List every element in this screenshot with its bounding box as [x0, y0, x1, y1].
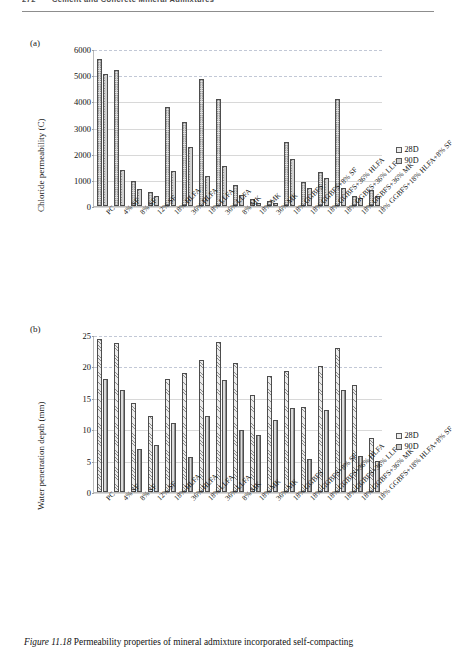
chart-panel-a: (a) Chloride permeability (C) 0100020003…	[0, 36, 455, 306]
panel-a-y-axis-title: Chloride permeability (C)	[36, 119, 46, 212]
y-axis-tick-label: 4000	[74, 97, 91, 107]
bar-28d	[97, 339, 102, 492]
legend-swatch-icon	[396, 444, 402, 450]
legend-swatch-icon	[396, 147, 402, 153]
y-axis-tick-label: 3000	[74, 124, 91, 134]
bar-28d	[131, 403, 136, 492]
bar-28d	[97, 59, 102, 206]
legend-label: 90D	[405, 157, 419, 165]
bar-28d	[301, 407, 306, 492]
bar-28d	[148, 416, 153, 492]
y-axis-tick-mark	[92, 430, 95, 431]
legend-item[interactable]: 90D	[396, 157, 419, 165]
legend-swatch-icon	[396, 433, 402, 439]
y-axis-tick-mark	[92, 367, 95, 368]
panel-b-tag: (b)	[30, 324, 41, 334]
y-axis-tick-label: 10	[83, 425, 92, 435]
chart-panel-b: (b) Water penetration depth (mm) 0510152…	[0, 322, 455, 622]
y-axis-tick-label: 6000	[74, 45, 91, 55]
bar-90d	[103, 74, 108, 206]
bar-28d	[199, 79, 204, 206]
legend-swatch-icon	[396, 158, 402, 164]
y-axis-tick-mark	[92, 493, 95, 494]
bar-28d	[267, 376, 272, 492]
bar-90d	[120, 390, 125, 492]
book-section-title: Cement and Concrete Mineral Admixtures	[52, 0, 214, 4]
bar-28d	[284, 371, 289, 492]
y-axis-tick-mark	[92, 207, 95, 208]
y-axis-tick-label: 0	[87, 488, 91, 498]
y-axis-tick-label: 1000	[74, 176, 91, 186]
legend-item[interactable]: 90D	[396, 443, 419, 451]
y-axis-tick-mark	[92, 155, 95, 156]
bar-28d	[165, 107, 170, 206]
y-axis-tick-mark	[92, 336, 95, 337]
bar-28d	[165, 379, 170, 492]
header-rule	[22, 11, 434, 12]
panel-a-legend: 28D90D	[396, 146, 419, 168]
y-axis-tick-mark	[92, 76, 95, 77]
bar-28d	[114, 70, 119, 206]
y-axis-tick-label: 15	[83, 394, 92, 404]
bar-28d	[182, 373, 187, 492]
gridline	[94, 336, 382, 337]
y-axis-tick-label: 5000	[74, 71, 91, 81]
bar-28d	[114, 343, 119, 492]
y-axis-tick-label: 5	[87, 457, 91, 467]
bar-28d	[182, 122, 187, 206]
panel-b-legend: 28D90D	[396, 432, 419, 454]
y-axis-tick-label: 20	[83, 362, 92, 372]
panel-b-y-axis-title: Water penetration depth (mm)	[36, 402, 46, 510]
y-axis-tick-mark	[92, 102, 95, 103]
bar-90d	[103, 379, 108, 492]
y-axis-tick-mark	[92, 50, 95, 51]
y-axis-tick-label: 25	[83, 331, 92, 341]
figure-caption-label: Figure 11.18	[24, 637, 72, 647]
y-axis-tick-label: 2000	[74, 150, 91, 160]
legend-item[interactable]: 28D	[396, 146, 419, 154]
bar-28d	[216, 342, 221, 492]
y-axis-tick-label: 0	[87, 202, 91, 212]
legend-label: 28D	[405, 432, 419, 440]
running-head: 272 Cement and Concrete Mineral Admixtur…	[22, 0, 434, 10]
y-axis-tick-mark	[92, 399, 95, 400]
legend-item[interactable]: 28D	[396, 432, 419, 440]
bar-90d	[120, 170, 125, 206]
gridline	[94, 76, 382, 77]
legend-label: 90D	[405, 443, 419, 451]
page-number: 272	[22, 0, 36, 4]
panel-a-tag: (a)	[30, 38, 40, 48]
y-axis-tick-mark	[92, 129, 95, 130]
bar-28d	[233, 363, 238, 492]
bar-28d	[199, 360, 204, 492]
figure-caption-text: Permeability properties of mineral admix…	[74, 637, 353, 647]
gridline	[94, 50, 382, 51]
y-axis-tick-mark	[92, 181, 95, 182]
y-axis-tick-mark	[92, 462, 95, 463]
legend-label: 28D	[405, 146, 419, 154]
figure-page: 272 Cement and Concrete Mineral Admixtur…	[0, 0, 455, 667]
figure-caption: Figure 11.18 Permeability properties of …	[24, 636, 436, 649]
